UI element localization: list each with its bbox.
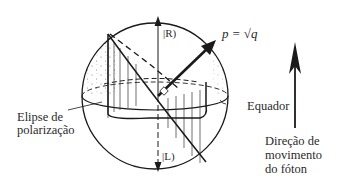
polarization-ellipse-label: Elipse de polarização xyxy=(17,111,75,137)
point-label: p = √q xyxy=(222,27,257,40)
photon-direction-label-line2: movimento xyxy=(265,148,322,162)
arrow-up-icon xyxy=(155,16,162,26)
photon-direction-arrow xyxy=(289,42,301,128)
arrow-down-icon xyxy=(155,162,162,172)
photon-direction-label-line1: Direção de xyxy=(265,134,322,148)
polarization-ellipse xyxy=(104,34,206,163)
equator-label: Equador xyxy=(247,100,289,113)
photon-direction-label: Direção de movimento do fóton xyxy=(265,134,322,176)
left-state-label: |L) xyxy=(162,150,175,163)
photon-direction-label-line3: do fóton xyxy=(265,162,322,176)
polarization-ellipse-label-line2: polarização xyxy=(17,124,75,137)
state-vector-arrow xyxy=(158,40,216,96)
ellipse-leader-line xyxy=(68,102,102,110)
right-state-label: |R) xyxy=(163,27,176,40)
